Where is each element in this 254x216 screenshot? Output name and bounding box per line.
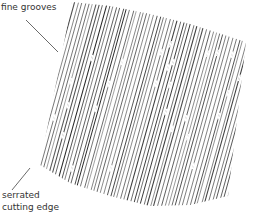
groove-line <box>0 0 58 216</box>
groove-break <box>155 81 157 87</box>
groove-break <box>207 50 209 56</box>
serrated-cutting-edge-label: serrated cutting edge <box>2 189 59 213</box>
groove-line <box>234 0 254 216</box>
groove-line <box>141 0 201 216</box>
groove-break <box>27 90 29 96</box>
groove-break <box>70 78 72 84</box>
grooves-leader-line <box>26 20 58 52</box>
groove-line <box>0 0 54 216</box>
groove-line <box>191 0 251 216</box>
fine-grooves-label: fine grooves <box>1 1 57 13</box>
groove-break <box>218 113 220 119</box>
groove-break <box>67 102 69 108</box>
groove-break <box>108 81 110 87</box>
groove-break <box>34 130 36 136</box>
groove-break <box>121 59 123 65</box>
label-line-1: serrated <box>2 189 59 201</box>
groove-break <box>185 115 187 121</box>
groove-break <box>71 165 73 171</box>
groove-break <box>110 165 112 171</box>
groove-break <box>12 156 14 162</box>
groove-break <box>251 146 253 152</box>
groove-break <box>53 114 55 120</box>
label-line-2: cutting edge <box>2 201 59 213</box>
groove-break <box>217 50 219 56</box>
groove-line <box>5 0 65 216</box>
groove-line <box>15 0 75 216</box>
groove-line <box>119 0 179 216</box>
edge-leader-line <box>12 168 30 190</box>
groove-line <box>205 0 254 216</box>
groove-break <box>231 51 233 57</box>
groove-break <box>160 49 162 55</box>
groove-break <box>165 109 167 115</box>
groove-break <box>170 41 172 47</box>
groove-break <box>62 132 64 138</box>
groove-line <box>84 0 144 216</box>
groove-line <box>237 0 254 216</box>
grooved-surface-illustration <box>0 0 254 216</box>
groove-break <box>251 42 253 48</box>
diagram-figure: fine grooves serrated cutting edge <box>0 0 254 216</box>
groove-break <box>227 90 229 96</box>
groove-line <box>0 0 51 216</box>
groove-break <box>95 106 97 112</box>
groove-break <box>91 55 93 61</box>
groove-break <box>171 126 173 132</box>
groove-line <box>133 0 193 216</box>
groove-line <box>198 0 254 216</box>
groove-break <box>167 64 169 70</box>
groove-break <box>187 134 189 140</box>
groove-line <box>229 0 254 216</box>
groove-break <box>192 163 194 169</box>
groove-break <box>169 82 171 88</box>
groove-break <box>55 42 57 48</box>
groove-break <box>172 59 174 65</box>
groove-break <box>241 93 243 99</box>
groove-break <box>243 98 245 104</box>
groove-break <box>238 75 240 81</box>
groove-break <box>44 121 46 127</box>
groove-line <box>12 0 72 216</box>
